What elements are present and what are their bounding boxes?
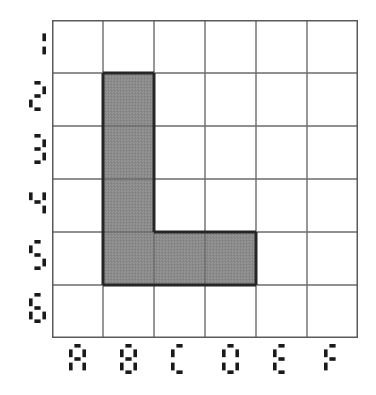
col-label-f [307, 343, 358, 383]
row-label-3 [0, 126, 46, 179]
col-label-e [256, 343, 307, 383]
seg-letter-e [273, 344, 290, 385]
shaded-cell [103, 73, 154, 126]
col-label-c [154, 343, 205, 383]
seg-letter-c [171, 344, 188, 385]
col-label-b [103, 343, 154, 383]
shaded-cell [103, 126, 154, 179]
row-label-5 [0, 232, 46, 285]
seg-digit-1 [29, 22, 46, 75]
seg-letter-a [69, 344, 86, 385]
column-label-axis [52, 343, 358, 383]
seg-digit-6 [29, 287, 46, 340]
seg-digit-2 [29, 75, 46, 128]
col-label-a [52, 343, 103, 383]
seg-digit-3 [29, 128, 46, 181]
shaded-cell [154, 232, 205, 285]
grid-svg [52, 20, 358, 338]
shaded-cell [103, 179, 154, 232]
shaded-cell [103, 232, 154, 285]
grid-figure [0, 0, 376, 395]
shaded-cell [205, 232, 256, 285]
seg-letter-f [324, 344, 341, 385]
seg-letter-b [120, 344, 137, 385]
col-label-d [205, 343, 256, 383]
row-label-2 [0, 73, 46, 126]
grid-plot-area [52, 20, 358, 338]
row-label-6 [0, 285, 46, 338]
row-label-1 [0, 20, 46, 73]
row-label-4 [0, 179, 46, 232]
seg-digit-4 [29, 181, 46, 234]
row-label-axis [0, 20, 52, 338]
seg-letter-d [222, 344, 239, 385]
seg-digit-5 [29, 234, 46, 287]
